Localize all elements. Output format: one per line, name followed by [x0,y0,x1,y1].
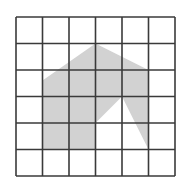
grid-figure [0,0,184,186]
